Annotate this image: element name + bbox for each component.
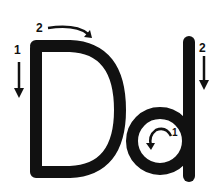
lowercase-step-1-number: 1 xyxy=(172,128,178,138)
curved-arrow-right-icon xyxy=(48,27,92,38)
arrow-down-icon xyxy=(199,56,209,90)
lowercase-step-2-number: 2 xyxy=(199,42,206,54)
uppercase-step-1-number: 1 xyxy=(14,44,21,56)
counter-clockwise-arrow-icon xyxy=(146,129,171,150)
lowercase-d-glyph xyxy=(132,42,189,176)
uppercase-d-glyph xyxy=(36,46,120,172)
letter-tracing-canvas xyxy=(0,0,223,196)
arrow-down-icon xyxy=(14,62,24,98)
uppercase-step-2-number: 2 xyxy=(36,22,43,34)
